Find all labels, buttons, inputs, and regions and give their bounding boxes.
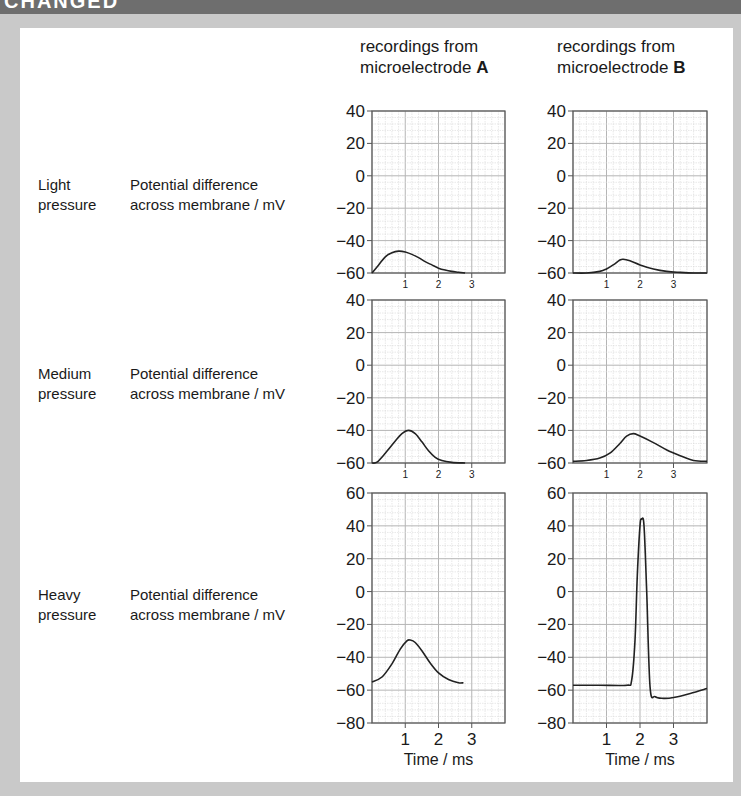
column-header-b-line1: recordings from [557,36,686,57]
y-tick-label: −60 [336,264,365,283]
grid [372,300,505,463]
x-tick-label: 2 [637,279,643,290]
y-tick-label: 0 [356,356,365,375]
y-tick-label: 40 [346,103,365,121]
y-tick-label: −60 [537,681,566,700]
x-tick-label: 3 [467,730,476,749]
y-tick-label: 20 [346,324,365,343]
header-title: CHANGED [4,0,119,13]
y-tick-label: −60 [537,264,566,283]
row-label-heavy: Heavypressure [38,585,96,625]
y-tick-label: −40 [336,232,365,251]
y-tick-label: 60 [346,485,365,503]
chart-heavy-b: 6040200−20−40−60−80123Time / ms [531,485,711,785]
grid [573,111,707,273]
x-tick-label: 2 [436,469,442,480]
column-header-b: recordings from microelectrode B [557,36,686,78]
y-tick-label: 40 [346,292,365,310]
x-tick-label: 3 [469,469,475,480]
y-tick-label: −60 [537,454,566,473]
x-tick-label: 1 [401,730,410,749]
y-tick-label: 20 [547,550,566,569]
chart-light-b: 40200−20−40−60123 [531,103,711,301]
y-tick-label: 0 [356,583,365,602]
y-tick-label: −80 [336,714,365,733]
grid [372,111,505,273]
x-tick-label: 3 [469,279,475,290]
y-tick-label: −40 [537,232,566,251]
x-tick-label: 3 [671,279,677,290]
y-tick-label: −60 [336,454,365,473]
y-tick-label: −60 [336,681,365,700]
y-tick-label: −80 [537,714,566,733]
y-tick-label: −20 [336,199,365,218]
y-tick-label: 0 [557,356,566,375]
column-header-a-line2: microelectrode A [360,57,489,78]
y-tick-label: 0 [557,167,566,186]
x-axis-label: Time / ms [605,751,675,768]
x-tick-label: 1 [602,730,611,749]
x-tick-label: 1 [402,469,408,480]
x-tick-label: 2 [635,730,644,749]
grid [573,300,707,463]
y-tick-label: 40 [346,517,365,536]
x-tick-label: 2 [434,730,443,749]
y-tick-label: 20 [346,550,365,569]
ylabel-light: Potential differenceacross membrane / mV [130,175,285,215]
chart-medium-b: 40200−20−40−60123 [531,292,711,491]
y-tick-label: 20 [547,134,566,153]
y-tick-label: 0 [557,583,566,602]
potential-trace [372,640,463,683]
y-tick-label: −40 [336,648,365,667]
y-tick-label: 60 [547,485,566,503]
header-bar: CHANGED [0,0,741,14]
y-tick-label: 0 [356,167,365,186]
column-header-a: recordings from microelectrode A [360,36,489,78]
y-tick-label: 40 [547,517,566,536]
x-tick-label: 2 [436,279,442,290]
y-tick-label: 40 [547,292,566,310]
y-tick-label: −40 [537,421,566,440]
x-tick-label: 3 [669,730,678,749]
x-axis-label: Time / ms [404,751,474,768]
y-tick-label: −20 [537,615,566,634]
y-tick-label: −20 [336,615,365,634]
y-tick-label: −40 [336,421,365,440]
row-label-light: Lightpressure [38,175,96,215]
row-label-medium: Mediumpressure [38,364,96,404]
grid [372,493,505,723]
y-tick-label: −20 [537,199,566,218]
y-tick-label: 20 [547,324,566,343]
y-tick-label: −40 [537,648,566,667]
ylabel-medium: Potential differenceacross membrane / mV [130,364,285,404]
ylabel-heavy: Potential differenceacross membrane / mV [130,585,285,625]
chart-light-a: 40200−20−40−60123 [330,103,509,301]
y-tick-label: −20 [336,389,365,408]
y-tick-label: −20 [537,389,566,408]
chart-heavy-a: 6040200−20−40−60−80123Time / ms [330,485,509,785]
y-tick-label: 40 [547,103,566,121]
column-header-b-line2: microelectrode B [557,57,686,78]
y-tick-label: 20 [346,134,365,153]
x-tick-label: 1 [604,279,610,290]
x-tick-label: 3 [671,469,677,480]
x-tick-label: 1 [604,469,610,480]
x-tick-label: 1 [402,279,408,290]
column-header-a-line1: recordings from [360,36,489,57]
x-tick-label: 2 [637,469,643,480]
chart-medium-a: 40200−20−40−60123 [330,292,509,491]
